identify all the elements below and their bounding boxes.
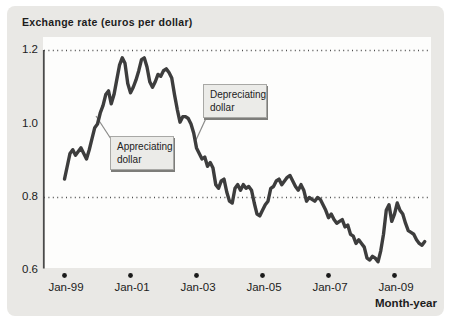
x-tick-dot-jan01 [128, 273, 133, 278]
x-tick-label-jan09: Jan-09 [371, 280, 421, 294]
annotation-appreciating-dollar: Appreciating dollar [110, 136, 174, 170]
x-tick-dot-jan09 [392, 273, 397, 278]
annotation-depreciating-dollar: Depreciating dollar [203, 84, 267, 118]
x-tick-label-jan01: Jan-01 [107, 280, 157, 294]
chart-canvas [0, 0, 449, 324]
x-tick-dot-jan03 [194, 273, 199, 278]
y-tick-label-0-6: 0.6 [11, 263, 38, 276]
x-tick-label-jan07: Jan-07 [305, 280, 355, 294]
x-tick-label-jan05: Jan-05 [239, 280, 289, 294]
x-tick-dot-jan99 [62, 273, 67, 278]
x-axis-label: Month-year [337, 296, 437, 310]
x-tick-label-jan99: Jan-99 [41, 280, 91, 294]
x-tick-label-jan03: Jan-03 [173, 280, 223, 294]
y-tick-label-0-8: 0.8 [11, 190, 38, 203]
x-tick-dot-jan05 [260, 273, 265, 278]
x-tick-dot-jan07 [326, 273, 331, 278]
y-tick-label-1-2: 1.2 [11, 43, 38, 56]
y-tick-label-1-0: 1.0 [11, 117, 38, 130]
